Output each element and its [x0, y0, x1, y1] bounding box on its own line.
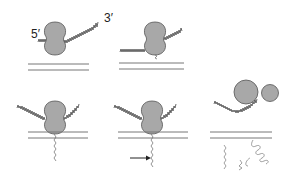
mrna-strand	[164, 28, 182, 40]
nascent-peptide	[151, 134, 153, 167]
panel-4	[114, 101, 188, 167]
panel-5	[210, 80, 279, 170]
mrna-strand	[17, 105, 45, 120]
mrna-strand	[64, 104, 79, 120]
panel-3	[17, 101, 88, 161]
ribosome	[144, 22, 165, 55]
mrna-strand	[114, 105, 142, 120]
peptide-fragment	[239, 160, 242, 170]
diagram-canvas: 5′ 3′	[0, 0, 290, 179]
panel-2	[119, 22, 184, 69]
signal-peptide	[224, 145, 226, 169]
three-prime-label: 3′	[104, 11, 114, 25]
large-ribosome-subunit	[234, 80, 258, 104]
folded-protein	[246, 140, 268, 166]
mrna-strand	[38, 39, 46, 42]
ribosome	[141, 101, 162, 134]
mrna-strand	[63, 22, 98, 43]
ribosome	[44, 22, 65, 55]
panel-1: 5′ 3′	[28, 11, 114, 70]
mrna-strand	[120, 49, 145, 52]
arrow-head-icon	[146, 156, 151, 161]
ribosome	[44, 101, 65, 134]
nascent-peptide	[155, 55, 157, 59]
mrna-strand	[161, 104, 176, 120]
small-ribosome-subunit	[262, 85, 279, 102]
